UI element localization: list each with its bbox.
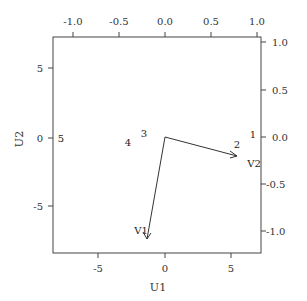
top-tick-label: -0.5 [109,16,128,27]
v1-arrow [147,137,165,239]
biplot-chart: -1.0 -0.5 0.0 0.5 1.0 1.0 0.5 0.0 -0.5 -… [0,0,307,301]
top-axis [73,32,257,37]
top-tick-label: 0.0 [157,16,173,27]
vector-arrows [143,137,237,239]
point-label-4: 4 [125,137,131,148]
right-tick-label: 0.5 [272,85,288,96]
plot-frame [53,37,261,253]
top-tick-label: -1.0 [63,16,82,27]
right-tick-label: -0.5 [266,179,285,190]
point-label-1: 1 [250,129,256,140]
bottom-tick-label: -5 [93,263,103,274]
bottom-tick-label: 0 [162,263,168,274]
top-tick-label: 1.0 [249,16,265,27]
left-tick-label: 0 [37,133,43,144]
right-tick-label: 0.0 [272,132,288,143]
right-tick-label: -1.0 [266,226,285,237]
bottom-tick-label: 5 [228,263,234,274]
right-tick-label: 1.0 [272,37,288,48]
vector-label-v1: V1 [133,225,148,236]
v2-arrow [165,137,237,156]
point-label-3: 3 [141,128,147,139]
point-label-5: 5 [58,133,64,144]
point-label-2: 2 [234,139,240,150]
vector-label-v2: V2 [246,158,261,169]
right-axis [261,42,266,231]
bottom-axis [98,253,231,258]
left-axis [48,68,53,206]
x-axis-label: U1 [150,281,166,294]
left-tick-label: 5 [37,63,43,74]
y-axis-label: U2 [13,131,26,147]
top-tick-label: 0.5 [203,16,219,27]
left-tick-label: -5 [33,201,43,212]
